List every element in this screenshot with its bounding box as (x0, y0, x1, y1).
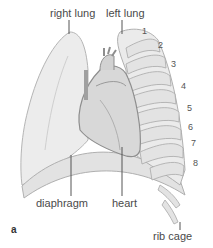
figure-letter: a (11, 224, 17, 235)
rib-number-2: 2 (158, 40, 163, 50)
rib-number-4: 4 (181, 81, 186, 91)
rib-cage-label: rib cage (153, 230, 192, 242)
heart-label: heart (112, 197, 137, 209)
rib-number-6: 6 (188, 122, 193, 132)
diaphragm-label: diaphragm (36, 197, 88, 209)
right-lung-label: right lung (50, 7, 95, 19)
rib-number-5: 5 (187, 103, 192, 113)
rib-number-8: 8 (193, 158, 198, 168)
thorax-illustration (0, 0, 213, 248)
left-lung-label: left lung (106, 7, 145, 19)
rib-number-3: 3 (171, 59, 176, 69)
rib-number-1: 1 (142, 26, 147, 36)
rib-number-7: 7 (191, 138, 196, 148)
